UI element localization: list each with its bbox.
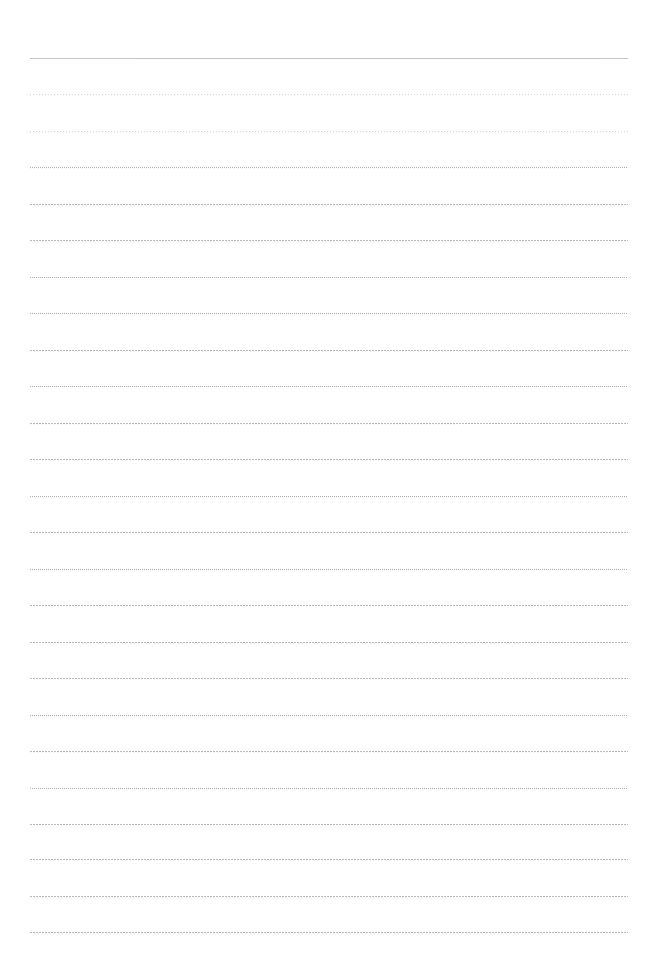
writing-area[interactable] <box>30 40 628 945</box>
lined-paper-page <box>0 0 658 965</box>
